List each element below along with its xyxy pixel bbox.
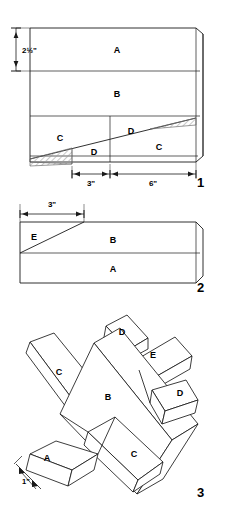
- figure-3-label-c-left: C: [56, 367, 63, 377]
- figure-2-label-e: E: [31, 232, 37, 242]
- figure-1-dimension-3in-label: 3": [87, 179, 95, 186]
- figure-3-label-d-top: D: [119, 327, 126, 337]
- figure-2-label-a: A: [110, 264, 117, 274]
- figure-1-label-a: A: [114, 45, 121, 55]
- figure-1-dimension-6in-label: 6": [149, 179, 157, 186]
- figure-1-label-d-lower: D: [91, 147, 98, 157]
- figure-2-dimension-width: 3": [20, 200, 84, 222]
- figure-2-number: 2: [197, 281, 204, 294]
- figure-1-dimension-widths: 3" 6": [72, 162, 196, 186]
- figure-3-assembly: [26, 315, 198, 494]
- figure-1-dimension-height-label: 2½": [22, 46, 37, 55]
- figure-2-label-b: B: [110, 235, 117, 245]
- figure-3-dimension-1in-label: 1": [22, 477, 30, 486]
- figure-3-label-e: E: [150, 350, 156, 360]
- figure-2: 3" E B A 2: [0, 192, 225, 300]
- figure-3-label-b: B: [105, 392, 112, 402]
- figure-3-label-a: A: [44, 453, 51, 463]
- figure-3-drawing: D E D C B C A 1": [0, 304, 225, 517]
- figure-1-label-c-left: C: [57, 133, 64, 143]
- figure-3: D E D C B C A 1" 3: [0, 304, 225, 517]
- diagram-sheet: A B C D D C 2½": [0, 0, 225, 517]
- figure-1-number: 1: [197, 176, 204, 189]
- figure-1-drawing: A B C D D C 2½": [0, 14, 225, 186]
- figure-3-number: 3: [197, 486, 204, 499]
- figure-1: A B C D D C 2½": [0, 14, 225, 186]
- figure-2-drawing: 3" E B A: [0, 192, 225, 300]
- figure-2-dimension-3in-label: 3": [48, 200, 56, 209]
- figure-1-label-b: B: [114, 89, 121, 99]
- figure-3-label-c-right: C: [131, 449, 138, 459]
- figure-1-label-c-right: C: [156, 142, 163, 152]
- figure-1-label-d-upper: D: [128, 126, 135, 136]
- figure-3-label-d-right: D: [177, 388, 184, 398]
